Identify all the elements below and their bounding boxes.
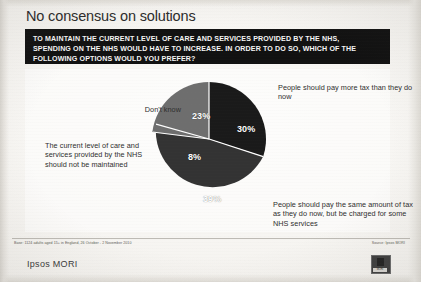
footnote-source: Source: Ipsos MORI (372, 241, 405, 245)
chart-panel: 30% 39% 8% 23% People should pay more ta… (25, 69, 390, 232)
brand-logo-band: MORI (373, 268, 387, 272)
pie-value-more-tax: 30% (237, 124, 255, 134)
question-line-3: FOLLOWING OPTIONS WOULD YOU PREFER? (33, 55, 196, 63)
pie-value-dont-know: 23% (192, 111, 210, 121)
pie-label-not-maintained: The current level of care and services p… (45, 141, 160, 169)
page-title: No consensus on solutions (26, 8, 196, 24)
pie-value-same-amount: 39% (203, 194, 221, 204)
pie-chart-svg (150, 80, 268, 198)
slide-canvas: No consensus on solutions TO MAINTAIN TH… (0, 0, 421, 282)
pie-chart (150, 80, 268, 198)
pie-label-dont-know: Don't know (111, 105, 181, 114)
question-line-1: TO MAINTAIN THE CURRENT LEVEL OF CARE AN… (33, 35, 339, 43)
pie-label-more-tax: People should pay more tax than they do … (278, 83, 413, 102)
question-banner: TO MAINTAIN THE CURRENT LEVEL OF CARE AN… (25, 29, 390, 64)
brand-logo: MORI (371, 255, 391, 274)
question-line-2: SPENDING ON THE NHS WOULD HAVE TO INCREA… (33, 45, 356, 53)
brand-logo-mark (377, 258, 384, 266)
footnote-base: Base: 1124 adults aged 15+ in England, 2… (14, 241, 131, 245)
pie-label-same-amount: People should pay the same amount of tax… (273, 200, 418, 228)
brand-wordmark: Ipsos MORI (27, 259, 78, 269)
brand-logo-text: MORI (373, 268, 387, 271)
footer-divider (12, 238, 410, 239)
slide-content: No consensus on solutions TO MAINTAIN TH… (0, 0, 421, 282)
pie-value-not-maintained: 8% (188, 152, 201, 162)
